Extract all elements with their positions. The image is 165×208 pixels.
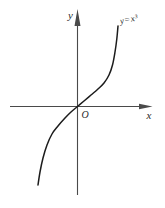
cubic-function-plot: y x O y=x³ — [0, 0, 165, 208]
curve-equation-label: y=x³ — [118, 12, 139, 26]
y-axis-arrowhead — [75, 9, 81, 26]
x-axis-label: x — [146, 109, 152, 121]
y-axis-label: y — [67, 9, 73, 21]
cubic-function-figure: y x O y=x³ — [0, 0, 165, 208]
origin-label: O — [82, 109, 89, 120]
